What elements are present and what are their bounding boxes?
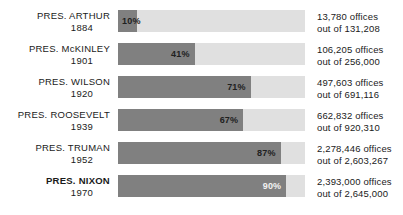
row-statistics: 13,780 offices out of 131,208 — [317, 9, 403, 34]
bar-track: 41% — [118, 43, 305, 65]
row-label: PRES. TRUMAN 1952 — [0, 141, 110, 165]
president-name: PRES. NIXON — [0, 175, 110, 187]
chart-row-0: PRES. ARTHUR 1884 10% 13,780 offices out… — [0, 9, 403, 42]
offices-total: out of 691,116 — [317, 89, 403, 101]
bar-fill: 41% — [118, 43, 195, 65]
row-label: PRES. ROOSEVELT 1939 — [0, 108, 110, 132]
row-label: PRES. ARTHUR 1884 — [0, 9, 110, 33]
bar-track: 10% — [118, 10, 305, 32]
offices-count: 2,278,446 offices — [317, 143, 403, 155]
bar-fill: 87% — [118, 142, 281, 164]
percent-label: 87% — [257, 149, 276, 158]
offices-count: 2,393,000 offices — [317, 176, 403, 188]
president-year: 1970 — [0, 187, 110, 199]
row-statistics: 662,832 offices out of 920,310 — [317, 108, 403, 133]
bar-track: 67% — [118, 109, 305, 131]
chart-row-5: PRES. NIXON 1970 90% 2,393,000 offices o… — [0, 174, 403, 207]
percent-label: 10% — [122, 17, 141, 26]
row-statistics: 497,603 offices out of 691,116 — [317, 75, 403, 100]
row-statistics: 106,205 offices out of 256,000 — [317, 42, 403, 67]
president-year: 1901 — [0, 55, 110, 67]
bar-column: 90% — [118, 174, 305, 197]
row-label: PRES. McKINLEY 1901 — [0, 42, 110, 66]
offices-count: 497,603 offices — [317, 77, 403, 89]
offices-total: out of 131,208 — [317, 23, 403, 35]
offices-total: out of 256,000 — [317, 56, 403, 68]
chart-row-2: PRES. WILSON 1920 71% 497,603 offices ou… — [0, 75, 403, 108]
percent-label: 67% — [220, 116, 239, 125]
bar-column: 41% — [118, 42, 305, 65]
president-year: 1939 — [0, 121, 110, 133]
offices-count: 13,780 offices — [317, 11, 403, 23]
offices-count: 662,832 offices — [317, 110, 403, 122]
row-statistics: 2,393,000 offices out of 2,645,000 — [317, 174, 403, 199]
row-label: PRES. NIXON 1970 — [0, 174, 110, 198]
president-name: PRES. TRUMAN — [0, 142, 110, 154]
offices-count: 106,205 offices — [317, 44, 403, 56]
percent-label: 90% — [263, 182, 282, 191]
percent-label: 41% — [171, 50, 190, 59]
bar-track: 90% — [118, 175, 305, 197]
chart-row-1: PRES. McKINLEY 1901 41% 106,205 offices … — [0, 42, 403, 75]
bar-fill: 71% — [118, 76, 251, 98]
offices-total: out of 920,310 — [317, 122, 403, 134]
row-label: PRES. WILSON 1920 — [0, 75, 110, 99]
offices-total: out of 2,603,267 — [317, 155, 403, 167]
bar-fill: 67% — [118, 109, 243, 131]
bar-track: 71% — [118, 76, 305, 98]
president-year: 1952 — [0, 154, 110, 166]
bar-fill: 10% — [118, 10, 137, 32]
president-name: PRES. ARTHUR — [0, 10, 110, 22]
president-name: PRES. ROOSEVELT — [0, 109, 110, 121]
bar-column: 71% — [118, 75, 305, 98]
president-year: 1920 — [0, 88, 110, 100]
bar-column: 87% — [118, 141, 305, 164]
bar-track: 87% — [118, 142, 305, 164]
percent-label: 71% — [227, 83, 246, 92]
bar-column: 10% — [118, 9, 305, 32]
civil-service-coverage-chart: PRES. ARTHUR 1884 10% 13,780 offices out… — [0, 0, 403, 215]
president-name: PRES. WILSON — [0, 76, 110, 88]
row-statistics: 2,278,446 offices out of 2,603,267 — [317, 141, 403, 166]
chart-row-3: PRES. ROOSEVELT 1939 67% 662,832 offices… — [0, 108, 403, 141]
offices-total: out of 2,645,000 — [317, 188, 403, 200]
chart-row-4: PRES. TRUMAN 1952 87% 2,278,446 offices … — [0, 141, 403, 174]
president-year: 1884 — [0, 22, 110, 34]
president-name: PRES. McKINLEY — [0, 43, 110, 55]
bar-fill: 90% — [118, 175, 286, 197]
bar-column: 67% — [118, 108, 305, 131]
